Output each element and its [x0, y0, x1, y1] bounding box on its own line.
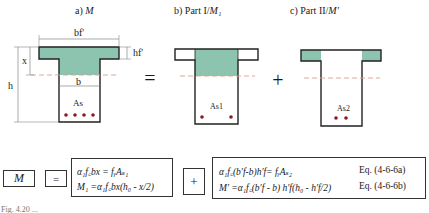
part2-line2-tag: Eq. (4-6-6b) — [359, 181, 406, 191]
part2-equation-box: α₁f꜀(b′f-b)h′f= fᵧAₛ₂ Eq. (4-6-6a) M′ =α… — [212, 157, 426, 199]
dim-label-hf: hf' — [133, 47, 143, 58]
lhs-box: M — [3, 170, 35, 187]
plus-symbol: + — [190, 174, 197, 190]
panel-a-section — [14, 35, 131, 122]
part2-line2: M′ =α₁f꜀(b′f - b) h′f(h₀ - h′f/2) — [219, 181, 331, 194]
lhs-symbol: M — [14, 171, 24, 186]
part1-line2: M₁ =α₁f꜀bx(h₀ - x/2) — [77, 180, 154, 193]
part1-line1: α₁f꜀bx = fᵧAₛ₁ — [77, 165, 128, 178]
panel-b-section — [175, 49, 258, 124]
part2-line1: α₁f꜀(b′f-b)h′f= fᵧAₛ₂ — [219, 165, 292, 178]
dim-label-x: x — [22, 55, 27, 66]
t-beam-diagrams — [0, 0, 429, 150]
equals-box: = — [45, 170, 67, 187]
rebar-label-b: As1 — [210, 102, 223, 111]
plus-operator: + — [268, 70, 288, 90]
dim-label-b: b — [76, 76, 81, 87]
part2-line1-tag: Eq. (4-6-6a) — [359, 165, 405, 175]
part1-equation-box: α₁f꜀bx = fᵧAₛ₁ M₁ =α₁f꜀bx(h₀ - x/2) — [71, 158, 173, 197]
dim-label-h: h — [8, 80, 13, 91]
panel-c-section — [301, 50, 381, 126]
rebar-label-a: As — [73, 98, 83, 108]
figure-caption: Fig. 4.20 ... — [1, 205, 38, 213]
equals-operator: = — [140, 68, 160, 88]
equals-symbol: = — [53, 173, 59, 185]
plus-box: + — [183, 168, 205, 195]
dim-label-bf: bf' — [74, 27, 84, 38]
rebar-label-c: As2 — [337, 104, 350, 113]
